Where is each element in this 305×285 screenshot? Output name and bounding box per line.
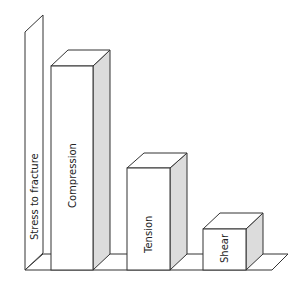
bar-label-shear: Shear — [219, 233, 230, 263]
bar-label-tension: Tension — [143, 216, 154, 254]
bar-tension — [127, 153, 187, 270]
bar-compression — [51, 50, 110, 270]
axis-label: Stress to fracture — [29, 153, 40, 240]
bar-shear — [203, 213, 263, 270]
bar-label-compression: Compression — [67, 143, 78, 208]
bar-diagram: Stress to fracture Compression Tension S… — [0, 0, 305, 285]
